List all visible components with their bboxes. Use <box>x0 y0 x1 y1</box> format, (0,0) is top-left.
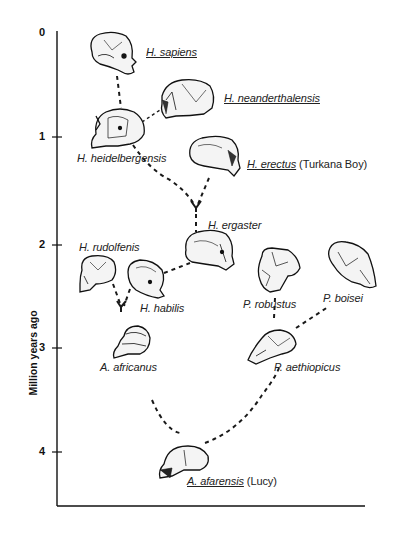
tick-label-4: 4 <box>39 445 45 457</box>
diagram-graphics <box>0 0 400 535</box>
label-heidelbergensis: H. heidelbergensis <box>77 152 166 164</box>
skull-boisei-icon <box>329 242 376 288</box>
link-heidelbergensis-neanderthalensis <box>142 108 163 122</box>
link-aethiopicus-boisei <box>296 307 328 328</box>
link-heidelbergensis-sapiens <box>117 76 121 108</box>
skull-heidelbergensis-icon <box>92 109 145 148</box>
label-neanderthalensis: H. neanderthalensis <box>224 92 320 104</box>
label-afarensis: A. afarensis (Lucy) <box>187 475 277 487</box>
hominin-evolution-diagram: 0 1 2 3 4 Million years ago H. sapiens H… <box>0 0 400 535</box>
label-africanus: A. africanus <box>100 361 157 373</box>
link-afarensis-aethiopicus <box>205 368 279 443</box>
label-robustus: P. robustus <box>243 298 296 310</box>
skull-ergaster-icon <box>186 230 234 270</box>
skull-afarensis-icon <box>160 446 209 478</box>
label-erectus: H. erectus (Turkana Boy) <box>247 158 367 170</box>
label-habilis: H. habilis <box>140 302 184 314</box>
label-sapiens: H. sapiens <box>146 46 197 58</box>
skull-africanus-icon <box>114 326 151 358</box>
skull-aethiopicus-icon <box>248 330 296 364</box>
skull-erectus-icon <box>190 136 240 176</box>
skull-habilis-icon <box>128 260 164 298</box>
tick-label-2: 2 <box>39 238 45 250</box>
link-afarensis-africanus <box>152 400 180 433</box>
tick-label-1: 1 <box>39 130 45 142</box>
tick-label-0: 0 <box>39 26 45 38</box>
tick-label-3: 3 <box>39 341 45 353</box>
skull-neanderthalensis-icon <box>162 80 214 118</box>
link-habilis-ergaster <box>164 263 190 273</box>
skull-rudolfenis-icon <box>80 256 116 292</box>
label-ergaster: H. ergaster <box>208 219 261 231</box>
skull-sapiens-icon <box>91 32 136 74</box>
label-boisei: P. boisei <box>323 292 363 304</box>
skull-robustus-icon <box>258 248 300 292</box>
label-aethiopicus: P. aethiopicus <box>274 361 340 373</box>
label-rudolfenis: H. rudolfenis <box>79 241 139 253</box>
link-ergaster-erectus <box>198 178 209 204</box>
y-axis-title: Million years ago <box>27 298 39 408</box>
